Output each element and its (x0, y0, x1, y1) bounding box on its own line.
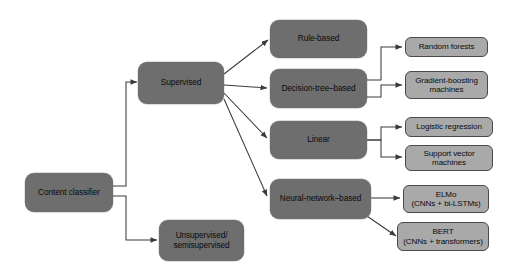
node-logistic-regression[interactable]: Logistic regression (405, 117, 493, 137)
node-gradient-boosting-machines[interactable]: Gradient-boosting machines (405, 71, 488, 99)
edge-root-to-unsupervised (112, 196, 157, 240)
edge-supervised-to-linear (224, 93, 267, 138)
node-elmo[interactable]: ELMo (CNNs + bi-LSTMs) (403, 185, 489, 213)
edge-decision-tree-to-random-forests (367, 47, 402, 80)
edge-root-to-supervised (112, 82, 137, 186)
edge-linear-to-logistic-regression (367, 127, 402, 140)
node-rule-based[interactable]: Rule-based (270, 20, 367, 58)
edge-supervised-to-decision-tree (224, 85, 267, 88)
node-linear[interactable]: Linear (270, 121, 367, 159)
node-bert[interactable]: BERT (CNNs + transformers) (397, 222, 489, 251)
edge-supervised-to-rule-based (224, 40, 268, 74)
edge-linear-to-support-vector (367, 140, 402, 157)
edge-neural-network-to-bert (364, 214, 396, 236)
node-random-forests[interactable]: Random forests (405, 37, 488, 57)
node-unsupervised-semisupervised[interactable]: Unsupervised/ semisupervised (159, 220, 244, 261)
edge-decision-tree-to-gradient-boosting (367, 85, 402, 97)
node-content-classifier[interactable]: Content classifier (25, 173, 113, 212)
node-support-vector-machines[interactable]: Support vector machines (405, 145, 493, 171)
node-decision-tree-based[interactable]: Decision-tree–based (270, 69, 367, 108)
node-neural-network-based[interactable]: Neural-network–based (270, 179, 371, 219)
node-supervised[interactable]: Supervised (138, 62, 224, 104)
edge-supervised-to-neural-network (224, 99, 267, 196)
flowchart-canvas: Content classifier Supervised Unsupervis… (0, 0, 513, 273)
